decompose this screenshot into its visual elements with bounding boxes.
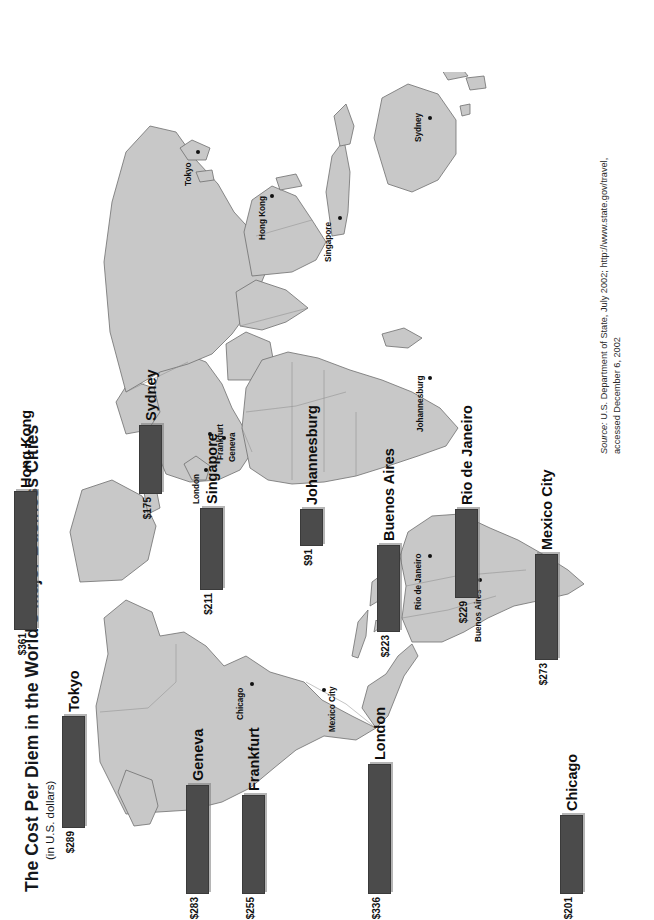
bar-rio-de-janeiro: $229 (455, 509, 478, 598)
bar-value-johannesburg: $91 (303, 549, 314, 566)
bar-label-mexico-city: Mexico City (539, 469, 555, 550)
map-dot-mexico-city (322, 688, 326, 692)
bar-tokyo: $289 (62, 716, 85, 828)
map-dot-buenos-aires (478, 578, 482, 582)
bar-group-sydney: $175 (139, 427, 162, 494)
bar-mexico-city: $273 (535, 554, 558, 660)
bar-london: $336 (368, 764, 391, 894)
bar-johannesburg: $91 (300, 509, 323, 546)
map-dot-singapore (338, 216, 342, 220)
map-label-singapore: Singapore (324, 222, 333, 262)
bar-label-sydney: Sydney (143, 369, 159, 421)
map-dot-geneva (222, 436, 226, 440)
bar-sydney: $175 (139, 425, 162, 494)
bar-label-singapore: Singapore (204, 433, 220, 504)
rotated-page-wrapper: The Cost Per Diem in the World's Major B… (0, 0, 654, 920)
bar-group-rio: $229 (455, 511, 478, 598)
landmass-india (236, 280, 308, 330)
bar-label-johannesburg: Johannesburg (304, 405, 320, 505)
bar-label-buenos-aires: Buenos Aires (381, 448, 397, 541)
bar-label-chicago: Chicago (564, 754, 580, 811)
bar-group-chicago: $201 (560, 817, 583, 894)
map-dot-rio (428, 554, 432, 558)
bar-value-tokyo: $289 (65, 831, 76, 853)
bar-group-frankfurt: $255 (242, 797, 265, 894)
bar-label-london: London (372, 707, 388, 760)
bar-group-tokyo: $289 (62, 718, 85, 828)
source-label: Source: (599, 422, 609, 454)
bar-group-london: $336 (368, 766, 391, 894)
bar-label-hong-kong: Hong Kong (18, 410, 34, 488)
bar-label-frankfurt: Frankfurt (246, 727, 262, 791)
source-text: U.S. Department of State, July 2002; htt… (599, 158, 622, 454)
landmass-tasmania (460, 104, 470, 116)
map-label-geneva: Geneva (228, 432, 237, 462)
map-dot-hong-kong (270, 194, 274, 198)
map-dot-tokyo (196, 150, 200, 154)
bar-group-mexico-city: $273 (535, 556, 558, 660)
page-subtitle: (in U.S. dollars) (44, 781, 56, 860)
map-label-tokyo: Tokyo (184, 162, 193, 186)
bar-group-johannesburg: $91 (300, 511, 323, 546)
bar-group-singapore: $211 (200, 510, 223, 590)
bar-value-rio-de-janeiro: $229 (458, 601, 469, 623)
landmass-africa (242, 352, 458, 484)
landmass-philippines (276, 174, 302, 190)
bar-frankfurt: $255 (242, 795, 265, 894)
landmass-new-zealand (442, 72, 468, 80)
bar-group-geneva: $283 (186, 787, 209, 894)
source-note: Source: U.S. Department of State, July 2… (598, 154, 623, 454)
map-label-rio: Rio de Janeiro (414, 554, 423, 610)
bar-label-rio-de-janeiro: Rio de Janeiro (459, 405, 475, 505)
map-label-mexico-city: Mexico City (328, 687, 337, 733)
bar-chicago: $201 (560, 815, 583, 894)
map-label-london: London (192, 474, 201, 504)
bar-value-geneva: $283 (189, 897, 200, 919)
map-dot-sydney (428, 116, 432, 120)
bar-value-frankfurt: $255 (245, 897, 256, 919)
bar-value-chicago: $201 (563, 897, 574, 919)
landmass-cuba (352, 610, 368, 658)
map-label-johannesburg: Johannesburg (416, 376, 425, 432)
bar-singapore: $211 (200, 508, 223, 590)
bar-value-sydney: $175 (142, 497, 153, 519)
bar-group-buenos-aires: $223 (377, 547, 400, 632)
figure-page: The Cost Per Diem in the World's Major B… (0, 0, 654, 920)
landmass-new-zealand-south (466, 76, 486, 90)
bar-buenos-aires: $223 (377, 545, 400, 632)
map-label-sydney: Sydney (414, 113, 423, 142)
landmass-china-sea-asia (244, 186, 326, 276)
bar-group-hong-kong: $361 (14, 493, 37, 630)
map-label-hong-kong: Hong Kong (258, 196, 267, 240)
bar-label-geneva: Geneva (190, 729, 206, 781)
bar-value-london: $336 (371, 897, 382, 919)
map-dot-chicago (250, 682, 254, 686)
map-label-chicago: Chicago (236, 688, 245, 720)
bar-value-singapore: $211 (203, 593, 214, 615)
bar-value-buenos-aires: $223 (380, 635, 391, 657)
bar-value-mexico-city: $273 (538, 663, 549, 685)
landmass-madagascar (382, 328, 422, 348)
bar-hong-kong: $361 (14, 491, 37, 630)
bar-label-tokyo: Tokyo (66, 670, 82, 712)
map-dot-johannesburg (428, 376, 432, 380)
landmass-greenland (70, 480, 156, 582)
bar-value-hong-kong: $361 (17, 633, 28, 655)
landmass-papua-new-guinea (334, 104, 354, 146)
bar-geneva: $283 (186, 785, 209, 894)
